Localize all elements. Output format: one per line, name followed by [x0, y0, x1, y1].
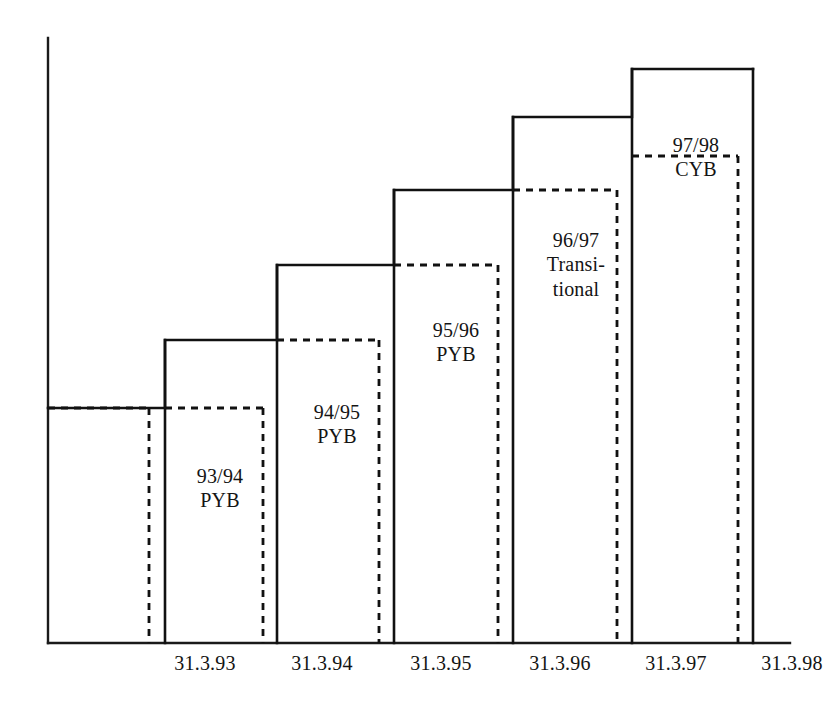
- x-tick-label-4: 31.3.96: [500, 652, 620, 674]
- bar-label-3: 95/96 PYB: [396, 318, 516, 367]
- x-tick-label-3: 31.3.95: [381, 652, 501, 674]
- x-tick-label-1: 31.3.93: [145, 652, 265, 674]
- x-tick-label-5: 31.3.97: [616, 652, 736, 674]
- bar-label-2: 94/95 PYB: [277, 400, 397, 449]
- bar-label-1: 93/94 PYB: [160, 464, 280, 513]
- x-tick-label-2: 31.3.94: [262, 652, 382, 674]
- bar-label-4: 96/97 Transi- tional: [516, 228, 636, 301]
- x-tick-label-6: 31.3.98: [732, 652, 827, 674]
- bar-label-5: 97/98 CYB: [636, 133, 756, 182]
